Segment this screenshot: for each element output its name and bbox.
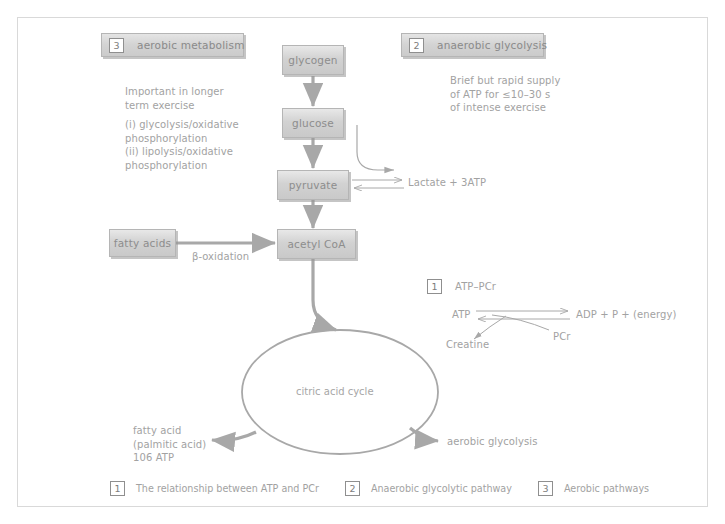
atp-pcr-creatine-label: Creatine	[446, 338, 489, 352]
header-aerobic-metabolism[interactable]: 3 aerobic metabolism	[101, 33, 244, 57]
node-pyruvate-label: pyruvate	[289, 179, 338, 191]
node-fatty-acids-label: fatty acids	[114, 237, 171, 249]
header-anaerobic-glycolysis[interactable]: 2 anaerobic glycolysis	[401, 33, 544, 57]
note-right: Brief but rapid supply of ATP for ≤10–30…	[450, 74, 560, 115]
arrow-glucose-to-lactate	[357, 125, 394, 170]
atp-pcr-title: ATP–PCr	[455, 280, 496, 294]
legend-label-2: Anaerobic glycolytic pathway	[371, 483, 512, 494]
header-num-2: 2	[409, 38, 424, 53]
node-glucose[interactable]: glucose	[282, 108, 344, 138]
label-lactate: Lactate + 3ATP	[408, 176, 486, 190]
atp-pcr-products-label: ADP + P + (energy)	[576, 308, 677, 322]
node-fatty-acids[interactable]: fatty acids	[109, 229, 176, 257]
atp-pcr-title-row: 1 ATP–PCr	[427, 279, 496, 294]
legend-num-1: 1	[110, 481, 125, 496]
arrow-cycle-to-aerobic-glycolysis	[410, 428, 438, 441]
legend-label-1: The relationship between ATP and PCr	[136, 483, 319, 494]
atp-pcr-pcr-label: PCr	[553, 330, 570, 344]
header-label-anaerobic-glycolysis: anaerobic glycolysis	[437, 39, 573, 51]
node-glucose-label: glucose	[292, 117, 334, 129]
diagram-page: 3 aerobic metabolism 2 anaerobic glycoly…	[0, 0, 725, 524]
node-acetyl-coa[interactable]: acetyl CoA	[277, 229, 356, 259]
arrow-pcr-inflow	[492, 315, 549, 330]
label-aerobic-glycolysis-output: aerobic glycolysis	[447, 435, 537, 449]
label-fatty-acid-output: fatty acid (palmitic acid) 106 ATP	[133, 424, 206, 465]
node-pyruvate[interactable]: pyruvate	[277, 170, 349, 200]
note-left-intro: Important in longer term exercise	[125, 85, 224, 112]
legend-num-2: 2	[345, 481, 360, 496]
legend-label-3: Aerobic pathways	[564, 483, 649, 494]
legend-item-1[interactable]: 1 The relationship between ATP and PCr	[110, 481, 319, 496]
legend-num-3: 3	[538, 481, 553, 496]
node-glycogen[interactable]: glycogen	[282, 45, 344, 75]
arrow-cycle-to-fatty-acid	[212, 432, 256, 440]
label-beta-oxidation: β-oxidation	[192, 250, 249, 264]
legend: 1 The relationship between ATP and PCr 2…	[110, 481, 649, 496]
legend-item-3[interactable]: 3 Aerobic pathways	[538, 481, 649, 496]
arrow-layer	[0, 0, 725, 524]
note-left-items: (i) glycolysis/oxidative phosphorylation…	[125, 118, 239, 172]
node-glycogen-label: glycogen	[288, 54, 337, 66]
node-acetyl-coa-label: acetyl CoA	[287, 238, 345, 250]
legend-item-2[interactable]: 2 Anaerobic glycolytic pathway	[345, 481, 512, 496]
header-label-aerobic-metabolism: aerobic metabolism	[137, 39, 271, 51]
arrow-acetylcoa-to-cycle	[313, 259, 336, 330]
atp-pcr-num: 1	[427, 279, 442, 294]
atp-pcr-atp-label: ATP	[452, 308, 471, 322]
header-num-3: 3	[109, 38, 124, 53]
label-citric-acid-cycle: citric acid cycle	[296, 386, 374, 397]
